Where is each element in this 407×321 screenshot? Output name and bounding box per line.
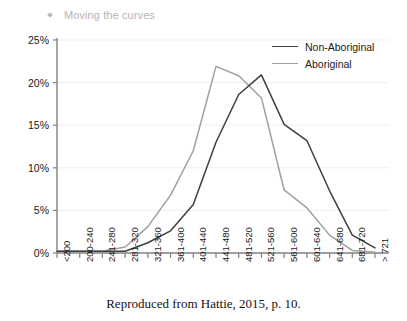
x-axis-label: 321-360 xyxy=(152,227,163,262)
x-axis-label: 241-280 xyxy=(106,227,117,262)
legend-item-non-aboriginal: Non-Aboriginal xyxy=(272,38,402,55)
y-axis-label: 5% xyxy=(13,204,49,216)
x-axis-label: 561-600 xyxy=(288,227,299,262)
y-axis-label: 20% xyxy=(13,77,49,89)
legend-label-non-aboriginal: Non-Aboriginal xyxy=(305,41,374,53)
x-axis-label: 281-320 xyxy=(129,227,140,262)
figure-caption: Reproduced from Hattie, 2015, p. 10. xyxy=(0,296,407,312)
chart-legend: Non-Aboriginal Aboriginal xyxy=(272,38,402,72)
chart-figure: Non-Aboriginal Aboriginal 0%5%10%15%20%2… xyxy=(0,24,407,292)
y-axis-label: 10% xyxy=(13,162,49,174)
legend-swatch-non-aboriginal xyxy=(272,46,298,47)
series-line-non-aboriginal xyxy=(57,75,375,251)
legend-label-aboriginal: Aboriginal xyxy=(305,58,352,70)
diamond-bullet-icon xyxy=(47,12,53,18)
x-axis-label: 401-440 xyxy=(197,227,208,262)
page-title: Moving the curves xyxy=(64,9,155,21)
x-axis-label: <200 xyxy=(61,241,72,262)
legend-item-aboriginal: Aboriginal xyxy=(272,55,402,72)
x-axis-label: 521-560 xyxy=(265,227,276,262)
slide-header: Moving the curves xyxy=(0,6,407,24)
x-axis-label: 681-720 xyxy=(356,227,367,262)
y-axis-label: 25% xyxy=(13,34,49,46)
x-axis-label: 481-520 xyxy=(243,227,254,262)
x-axis-label: 200-240 xyxy=(84,227,95,262)
series-line-aboriginal xyxy=(57,66,375,252)
x-axis-label: > 721 xyxy=(379,238,390,262)
legend-swatch-aboriginal xyxy=(272,63,298,64)
x-axis-label: 361-400 xyxy=(175,227,186,262)
y-axis-label: 0% xyxy=(13,247,49,259)
y-axis-label: 15% xyxy=(13,119,49,131)
x-axis-label: 441-480 xyxy=(220,227,231,262)
x-axis-label: 601-640 xyxy=(311,227,322,262)
x-axis-label: 641-680 xyxy=(334,227,345,262)
